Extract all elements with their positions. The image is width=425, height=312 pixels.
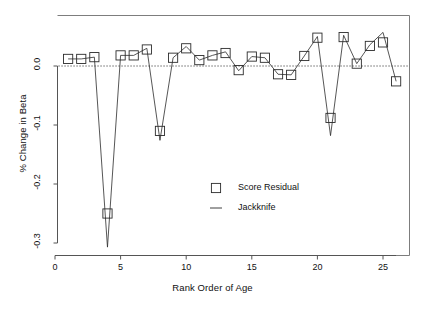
x-tick-label: 5 [118,262,123,272]
y-tick-label: -0.2 [32,167,42,197]
x-tick-label: 25 [378,262,388,272]
legend-glyphs [210,183,222,208]
jackknife-series-line [68,32,396,247]
plot-frame [58,16,410,256]
legend-label: Jackknife [238,202,276,212]
x-tick-label: 15 [247,262,257,272]
y-axis-title: % Change in Beta [17,49,28,219]
y-tick-label: -0.3 [32,226,42,256]
legend-label: Score Residual [238,182,299,192]
x-axis-title: Rank Order of Age [0,282,425,293]
x-axis [55,256,396,260]
x-tick-label: 10 [181,262,191,272]
score-residual-series-markers [64,32,401,218]
chart-figure: Rank Order of Age % Change in Beta 05101… [0,0,425,312]
y-axis [54,66,58,243]
y-tick-label: 0.0 [32,49,42,79]
plot-canvas [0,0,425,312]
x-tick-label: 20 [312,262,322,272]
x-tick-label: 0 [52,262,57,272]
y-tick-label: -0.1 [32,108,42,138]
